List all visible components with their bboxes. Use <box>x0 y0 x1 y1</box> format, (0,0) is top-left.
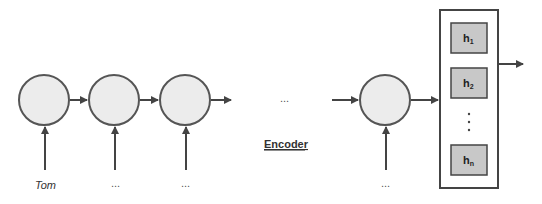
vertical-ellipsis-dot-1 <box>468 113 470 115</box>
input-label-3: ... <box>181 177 190 189</box>
vertical-ellipsis-dot-2 <box>468 121 470 123</box>
rnn-node-2 <box>89 75 139 125</box>
vertical-ellipsis-dot-3 <box>468 129 470 131</box>
input-label-1: Tom <box>35 179 56 191</box>
rnn-node-1 <box>19 75 69 125</box>
encoder-label: Encoder <box>264 138 309 150</box>
encoder-diagram: Tom ... ... ... ... Encoder h1 h2 hn <box>0 0 542 204</box>
middle-ellipsis: ... <box>280 92 289 104</box>
rnn-node-3 <box>160 75 210 125</box>
input-label-2: ... <box>111 177 120 189</box>
input-label-4: ... <box>381 177 390 189</box>
rnn-node-last <box>360 75 410 125</box>
